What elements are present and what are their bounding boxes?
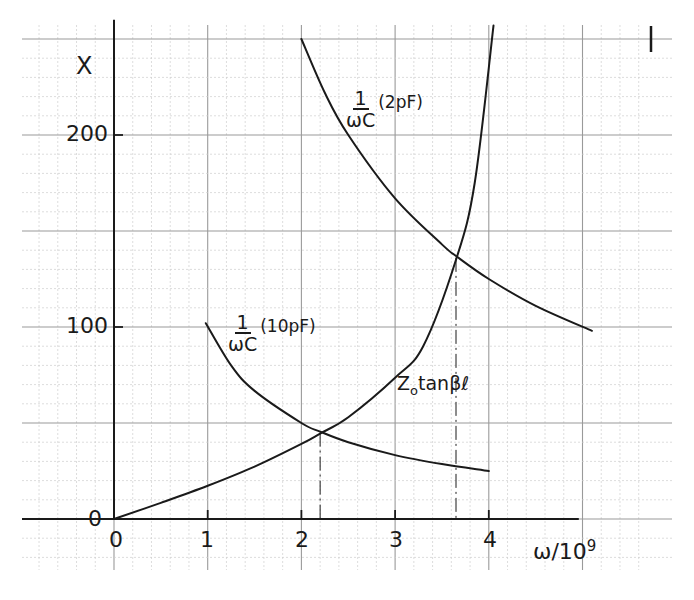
x-axis-label: ω/109 (533, 537, 596, 564)
fraction-denominator: ωC (228, 334, 257, 354)
x-axis-label-main: ω/10 (533, 539, 587, 564)
tan-beta-l: tanβℓ (418, 372, 469, 394)
x-tick-1: 1 (200, 527, 214, 552)
label-1-over-omega-c-2pf: 1ωC (2pF) (346, 88, 423, 130)
z-subscript: o (410, 383, 418, 398)
capacitance-2pf: (2pF) (378, 92, 423, 112)
x-tick-2: 2 (295, 527, 309, 552)
y-tick-0: 0 (88, 506, 102, 531)
label-1-over-omega-c-10pf: 1ωC (10pF) (228, 312, 316, 354)
x-axis-label-exponent: 9 (587, 537, 597, 555)
x-tick-3: 3 (389, 527, 403, 552)
x-tick-0: 0 (109, 527, 123, 552)
y-tick-200: 200 (52, 121, 108, 146)
label-z0-tan-beta-l: Zotanβℓ (397, 372, 469, 398)
curve-z0-tan-beta-l (114, 26, 494, 519)
fraction-numerator: 1 (235, 312, 251, 334)
x-tick-4: 4 (483, 527, 497, 552)
fraction-denominator: ωC (346, 110, 375, 130)
y-tick-100: 100 (52, 313, 108, 338)
z-symbol: Z (397, 372, 410, 394)
y-axis-label: X (76, 52, 92, 80)
capacitance-10pf: (10pF) (260, 316, 315, 336)
axes (22, 20, 651, 519)
fraction-numerator: 1 (353, 88, 369, 110)
